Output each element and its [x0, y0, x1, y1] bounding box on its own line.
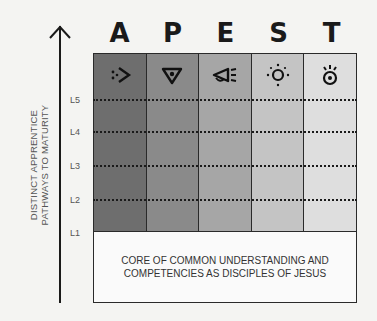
column-shepherd [252, 54, 305, 231]
apest-grid [93, 53, 357, 232]
level-label-l5: L5 [70, 95, 88, 105]
letter-p: P [146, 18, 199, 48]
arrow-up-icon [48, 25, 72, 39]
core-box: CORE OF COMMON UNDERSTANDING AND COMPETE… [93, 231, 357, 303]
letter-e: E [199, 18, 252, 48]
column-evangelist [199, 54, 252, 231]
apest-header: A P E S T [93, 18, 358, 48]
level-line-l4 [93, 131, 357, 133]
axis-label: DISTINCT APPRENTICE PATHWAYS TO MATURITY [28, 90, 50, 240]
axis-label-line1: DISTINCT APPRENTICE [28, 90, 39, 240]
shepherd-sun-icon [265, 62, 291, 88]
letter-t: T [305, 18, 358, 48]
level-label-l2: L2 [70, 195, 88, 205]
level-line-l3 [93, 165, 357, 167]
column-prophet [147, 54, 200, 231]
axis-label-line2: PATHWAYS TO MATURITY [39, 90, 50, 240]
core-text-line2: COMPETENCIES AS DISCIPLES OF JESUS [121, 267, 329, 280]
column-teacher [304, 54, 356, 231]
column-apostle [94, 54, 147, 231]
letter-s: S [252, 18, 305, 48]
level-label-l4: L4 [70, 127, 88, 137]
level-label-l1: L1 [70, 228, 88, 238]
apostle-arrow-icon [107, 65, 133, 85]
teacher-lightbulb-icon [318, 62, 342, 88]
letter-a: A [93, 18, 146, 48]
level-line-l2 [93, 199, 357, 201]
level-label-l3: L3 [70, 161, 88, 171]
core-text-line1: CORE OF COMMON UNDERSTANDING AND [121, 254, 329, 267]
level-line-l5 [93, 99, 357, 101]
vertical-axis-line [59, 26, 61, 303]
prophet-eye-triangle-icon [161, 65, 183, 85]
evangelist-megaphone-icon [211, 65, 239, 85]
